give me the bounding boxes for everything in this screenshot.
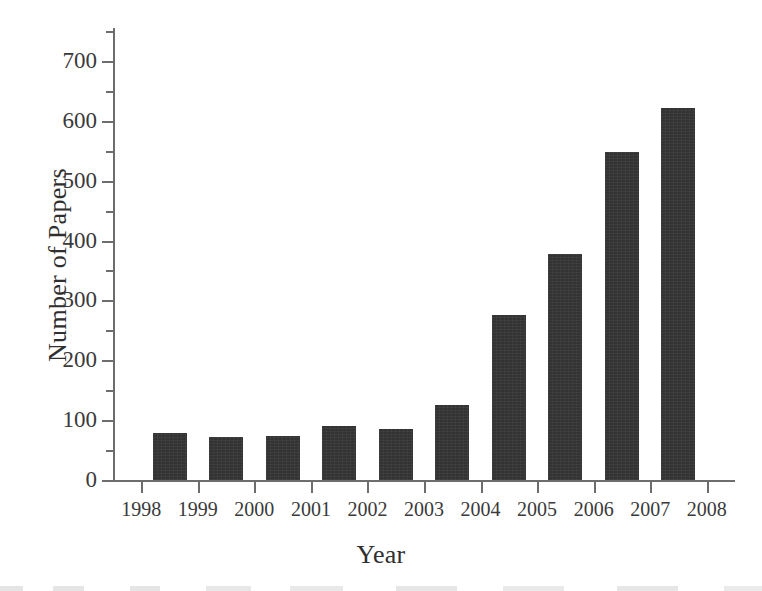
- y-tick-minor: [106, 151, 113, 153]
- x-tick: [198, 482, 200, 493]
- y-tick-label: 400: [37, 228, 97, 254]
- x-tick-label: 2005: [517, 498, 557, 521]
- x-tick-label: 2008: [687, 498, 727, 521]
- x-tick: [650, 482, 652, 493]
- y-tick-minor: [106, 390, 113, 392]
- y-tick-major: [102, 360, 113, 362]
- y-tick-minor: [106, 270, 113, 272]
- x-tick: [141, 482, 143, 493]
- bar-2007: [661, 108, 695, 480]
- scan-artifact-edge: [0, 586, 762, 591]
- x-tick-label: 1998: [121, 498, 161, 521]
- x-tick-label: 1999: [178, 498, 218, 521]
- x-tick: [367, 482, 369, 493]
- bar-2003: [435, 405, 469, 480]
- y-tick-label: 100: [37, 407, 97, 433]
- bar-2002: [379, 429, 413, 480]
- y-axis-line: [113, 28, 115, 482]
- x-tick: [424, 482, 426, 493]
- bar-1999: [209, 437, 243, 480]
- x-tick: [707, 482, 709, 493]
- y-tick-major: [102, 300, 113, 302]
- y-tick-label: 700: [37, 48, 97, 74]
- y-tick-label: 0: [37, 467, 97, 493]
- y-tick-major: [102, 61, 113, 63]
- bar-1998: [153, 433, 187, 480]
- y-tick-major: [102, 480, 113, 482]
- x-tick-label: 2000: [234, 498, 274, 521]
- bar-chart-figure: Number of Papers 0100200300400500600700 …: [0, 0, 762, 591]
- bar-2005: [548, 254, 582, 480]
- y-tick-major: [102, 241, 113, 243]
- x-tick: [254, 482, 256, 493]
- x-axis-title: Year: [0, 540, 762, 570]
- bar-2000: [266, 436, 300, 480]
- x-tick: [311, 482, 313, 493]
- x-tick-label: 2007: [630, 498, 670, 521]
- y-tick-major: [102, 420, 113, 422]
- x-tick-label: 2001: [291, 498, 331, 521]
- y-tick-label: 300: [37, 287, 97, 313]
- y-tick-label: 200: [37, 347, 97, 373]
- bar-2001: [322, 426, 356, 480]
- bar-2004: [492, 315, 526, 480]
- y-tick-minor: [106, 330, 113, 332]
- y-tick-minor: [106, 450, 113, 452]
- bar-2006: [605, 152, 639, 480]
- x-tick: [594, 482, 596, 493]
- x-tick-label: 2004: [461, 498, 501, 521]
- y-tick-major: [102, 121, 113, 123]
- y-tick-minor: [106, 31, 113, 33]
- y-tick-minor: [106, 211, 113, 213]
- y-tick-major: [102, 181, 113, 183]
- y-tick-label: 500: [37, 168, 97, 194]
- plot-area: 0100200300400500600700 19981999200020012…: [113, 28, 735, 482]
- y-tick-label: 600: [37, 108, 97, 134]
- x-tick-label: 2006: [574, 498, 614, 521]
- x-tick-label: 2002: [347, 498, 387, 521]
- y-tick-minor: [106, 91, 113, 93]
- x-tick-label: 2003: [404, 498, 444, 521]
- x-tick: [537, 482, 539, 493]
- x-tick: [481, 482, 483, 493]
